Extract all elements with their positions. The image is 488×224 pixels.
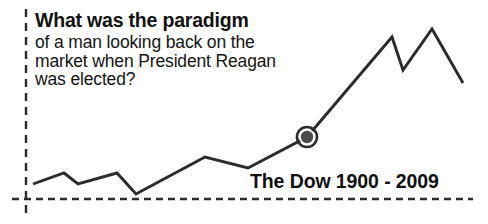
headline-question: What was the paradigm <box>35 9 249 32</box>
question-body-line-2: market when President Reagan <box>35 52 276 71</box>
question-body-line-3: was elected? <box>35 70 276 89</box>
text-layer: What was the paradigm of a man looking b… <box>0 0 488 224</box>
chart-caption: The Dow 1900 - 2009 <box>250 170 439 193</box>
question-body: of a man looking back on the market when… <box>35 33 276 89</box>
question-body-line-1: of a man looking back on the <box>35 33 276 52</box>
dow-chart-illustration: What was the paradigm of a man looking b… <box>0 0 488 224</box>
